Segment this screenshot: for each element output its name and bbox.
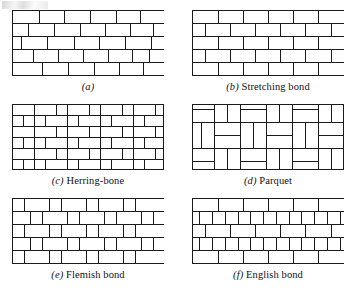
caption-b-letter: (b) bbox=[226, 81, 239, 92]
caption-f: (f) English bond bbox=[192, 268, 344, 281]
panel-f bbox=[192, 198, 344, 264]
caption-b: (b) Stretching bond bbox=[192, 80, 344, 93]
caption-c-text: Herring-bone bbox=[66, 175, 124, 186]
caption-c: (c) Herring-bone bbox=[12, 174, 164, 187]
caption-f-letter: (f) bbox=[233, 269, 243, 280]
caption-d-text: Parquet bbox=[259, 175, 292, 186]
panel-c bbox=[12, 104, 164, 170]
caption-c-letter: (c) bbox=[52, 175, 64, 186]
panel-b-diagram bbox=[192, 10, 344, 76]
caption-d-letter: (d) bbox=[244, 175, 257, 186]
panel-e bbox=[12, 198, 164, 264]
panel-e-diagram bbox=[12, 198, 164, 264]
caption-f-text: English bond bbox=[246, 269, 303, 280]
caption-d: (d) Parquet bbox=[192, 174, 344, 187]
panel-b bbox=[192, 10, 344, 76]
panel-c-diagram bbox=[12, 104, 164, 170]
caption-e-text: Flemish bond bbox=[66, 269, 125, 280]
caption-a-letter: (a) bbox=[82, 81, 95, 92]
caption-e: (e) Flemish bond bbox=[12, 268, 164, 281]
caption-e-letter: (e) bbox=[51, 269, 63, 280]
caption-a: (a) bbox=[12, 80, 164, 93]
panel-a-diagram bbox=[12, 10, 164, 76]
caption-b-text: Stretching bond bbox=[241, 81, 309, 92]
panel-f-diagram bbox=[192, 198, 344, 264]
panel-a bbox=[12, 10, 164, 76]
panel-d bbox=[192, 104, 344, 170]
brick-bond-figure: (a) bbox=[0, 0, 358, 296]
scan-artifact bbox=[2, 1, 48, 9]
panel-d-diagram bbox=[192, 104, 344, 170]
